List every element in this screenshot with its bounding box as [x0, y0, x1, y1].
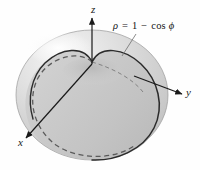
z-axis-label: z — [91, 4, 95, 15]
equals-sign: = — [121, 20, 129, 31]
constant-one: 1 — [132, 20, 137, 31]
rho-symbol: ρ — [113, 20, 118, 31]
y-axis-label: y — [186, 87, 191, 98]
cardioid-revolution-figure: ρ = 1 − cos ϕ z y x — [0, 0, 200, 170]
cos-function: cos — [151, 20, 166, 31]
minus-sign: − — [140, 20, 148, 31]
equation-label: ρ = 1 − cos ϕ — [113, 20, 174, 31]
cardioid-solid — [25, 50, 160, 160]
x-axis-label: x — [18, 137, 23, 148]
phi-symbol: ϕ — [169, 20, 175, 31]
